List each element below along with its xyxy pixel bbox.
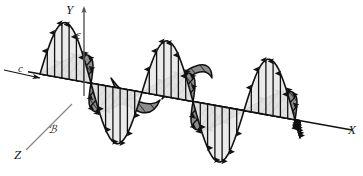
- electric-field-label: ε: [76, 28, 81, 42]
- magnetic-field-label: ℬ: [48, 123, 58, 135]
- z-axis-label: Z: [14, 147, 22, 162]
- em-wave-figure: Y X Z ε ℬ c: [0, 0, 363, 176]
- propagation-speed-label: c: [18, 62, 23, 74]
- x-axis-label: X: [347, 122, 357, 137]
